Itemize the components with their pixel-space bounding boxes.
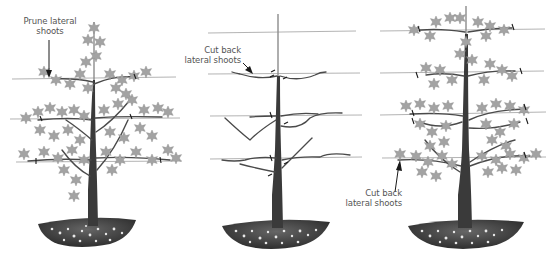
panel-1-arrow-down-icon xyxy=(46,40,52,78)
annotation-cut-back-lateral-shoots-1: Cut back lateral shoots xyxy=(179,45,241,65)
panel-1-foliage xyxy=(18,22,181,202)
panel-2-arrow-icon xyxy=(243,63,253,74)
panel-3-mature-tree xyxy=(380,6,546,249)
pruning-diagram xyxy=(0,0,556,256)
panel-1-leafy-tree xyxy=(10,22,182,247)
panel-1-soil xyxy=(38,218,136,247)
annotation-cut-back-lateral-shoots-2: Cut back lateral shoots xyxy=(336,188,402,208)
annotation-1-line-1: Prune lateral xyxy=(22,16,78,26)
panel-1-wires xyxy=(10,77,182,162)
annotation-3-line-2: lateral shoots xyxy=(336,198,402,208)
annotation-2-line-1: Cut back xyxy=(179,45,241,55)
annotation-1-line-2: shoots xyxy=(22,26,78,36)
annotation-prune-lateral-shoots: Prune lateral shoots xyxy=(22,16,78,36)
annotation-3-line-1: Cut back xyxy=(336,188,402,198)
annotation-2-line-2: lateral shoots xyxy=(179,55,241,65)
